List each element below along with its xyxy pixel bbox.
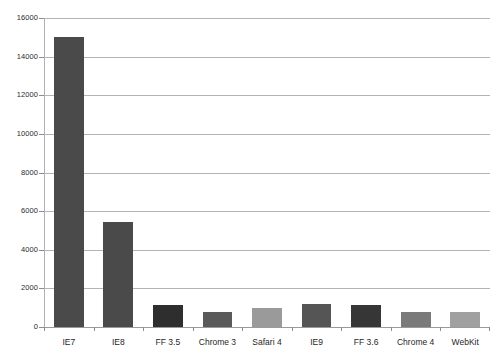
x-axis-labels: IE7IE8FF 3.5Chrome 3Safari 4IE9FF 3.6Chr… bbox=[44, 337, 490, 353]
x-axis-tick-label: Chrome 3 bbox=[193, 337, 243, 348]
y-axis-tick-label: 14000 bbox=[0, 53, 38, 61]
x-axis-tick bbox=[193, 327, 194, 331]
x-axis-tick-label: IE8 bbox=[94, 337, 144, 348]
x-axis-tick bbox=[94, 327, 95, 331]
y-axis-tick-label: 10000 bbox=[0, 130, 38, 138]
x-axis-tick bbox=[440, 327, 441, 331]
y-axis-labels: 0200040006000800010000120001400016000 bbox=[0, 0, 38, 363]
bar-webkit[interactable] bbox=[450, 312, 480, 327]
bar-chart: 0200040006000800010000120001400016000 IE… bbox=[0, 0, 500, 363]
y-axis-tick-label: 12000 bbox=[0, 91, 38, 99]
x-axis-tick-label: IE7 bbox=[44, 337, 94, 348]
bar-ff-3-5[interactable] bbox=[153, 305, 183, 327]
y-axis-tick-label: 0 bbox=[0, 323, 38, 331]
y-axis-tick-label: 6000 bbox=[0, 207, 38, 215]
bar-ie8[interactable] bbox=[103, 222, 133, 327]
x-axis-tick-label: Safari 4 bbox=[242, 337, 292, 348]
x-axis-tick bbox=[391, 327, 392, 331]
y-axis-tick-label: 4000 bbox=[0, 246, 38, 254]
bar-safari-4[interactable] bbox=[252, 308, 282, 327]
y-axis-tick-label: 8000 bbox=[0, 169, 38, 177]
bar-chrome-3[interactable] bbox=[203, 312, 233, 327]
x-axis-tick-label: Chrome 4 bbox=[391, 337, 441, 348]
x-axis-tick bbox=[242, 327, 243, 331]
bar-ie7[interactable] bbox=[54, 37, 84, 327]
bar-ff-3-6[interactable] bbox=[351, 305, 381, 327]
x-axis-tick-label: FF 3.5 bbox=[143, 337, 193, 348]
x-axis-tick bbox=[489, 327, 490, 331]
y-axis-tick-label: 2000 bbox=[0, 284, 38, 292]
x-axis-tick-label: IE9 bbox=[292, 337, 342, 348]
x-axis-tick bbox=[143, 327, 144, 331]
x-axis-tick bbox=[341, 327, 342, 331]
bars-layer bbox=[44, 18, 490, 327]
y-axis-tick-label: 16000 bbox=[0, 14, 38, 22]
x-axis-tick-label: FF 3.6 bbox=[341, 337, 391, 348]
x-axis-tick bbox=[292, 327, 293, 331]
bar-chrome-4[interactable] bbox=[401, 312, 431, 327]
bar-ie9[interactable] bbox=[302, 304, 332, 327]
x-axis-tick bbox=[44, 327, 45, 331]
x-axis-ticks bbox=[44, 327, 490, 332]
x-axis-tick-label: WebKit bbox=[440, 337, 490, 348]
